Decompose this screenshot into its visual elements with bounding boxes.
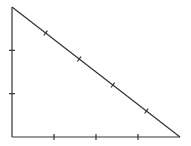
triangle-diagram [0, 0, 191, 146]
hypotenuse [12, 7, 180, 137]
